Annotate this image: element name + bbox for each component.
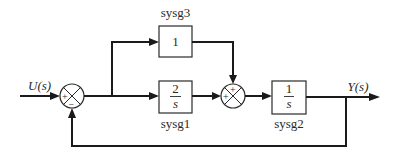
- sysg2-input-arrow-icon: [262, 92, 272, 100]
- sum1-sign-bottom: −: [69, 99, 75, 110]
- block-sysg2: 1 s sysg2: [272, 81, 306, 131]
- sum2-sign-left: +: [223, 91, 229, 102]
- summing-junction-1: + −: [60, 84, 84, 110]
- block-diagram: U(s) + − sysg3 1 2 s sysg1 +: [0, 0, 397, 158]
- sum2-left-arrow-icon: [212, 92, 221, 100]
- sysg2-tf-denominator: s: [286, 96, 291, 111]
- output-label: Y(s): [348, 79, 369, 94]
- sysg1-name: sysg1: [161, 116, 191, 131]
- output-signal: Y(s): [306, 79, 380, 101]
- sysg3-to-sum2-wire: [192, 42, 233, 77]
- sysg3-input-arrow-icon: [149, 38, 159, 46]
- sysg2-tf-numerator: 1: [286, 81, 293, 96]
- block-sysg1: 2 s sysg1: [159, 81, 192, 131]
- summing-junction-2: + +: [221, 84, 245, 108]
- input-label: U(s): [28, 78, 51, 93]
- output-arrow-icon: [369, 93, 380, 101]
- sum2-top-arrow-icon: [229, 75, 237, 84]
- sysg3-tf: 1: [172, 34, 179, 49]
- sum1-sign-left: +: [62, 91, 68, 102]
- sysg1-tf-denominator: s: [173, 96, 178, 111]
- sysg1-tf-numerator: 2: [172, 81, 179, 96]
- sum2-sign-top: +: [230, 84, 236, 95]
- block-sysg3: sysg3 1: [159, 5, 192, 57]
- input-arrow-icon: [50, 92, 60, 100]
- sysg2-name: sysg2: [274, 116, 304, 131]
- sysg3-name: sysg3: [161, 5, 191, 20]
- sysg1-input-arrow-icon: [149, 92, 159, 100]
- input-signal: U(s): [20, 78, 60, 100]
- branch-to-sysg3-wire: [112, 42, 151, 96]
